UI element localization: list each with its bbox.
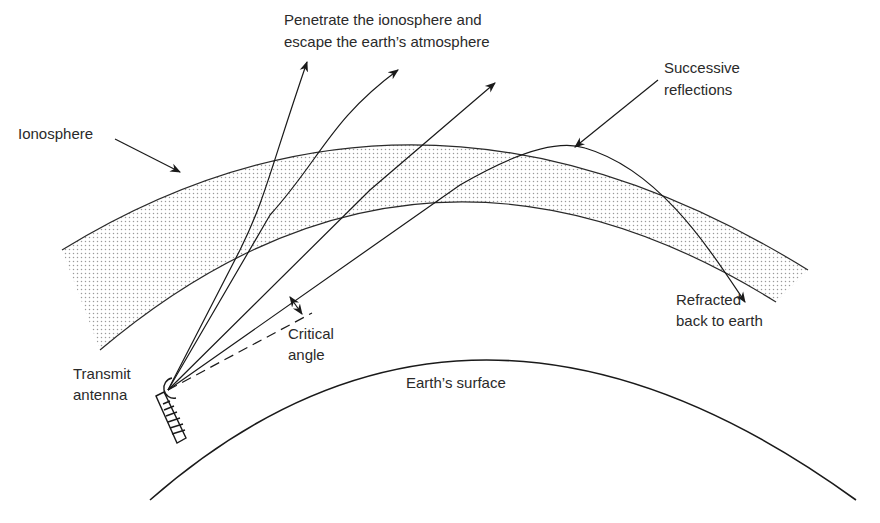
successive-pointer xyxy=(575,80,658,147)
refracted-label-line2: back to earth xyxy=(676,312,763,329)
ionosphere-diagram: Penetrate the ionosphere and escape the … xyxy=(0,0,880,523)
ionosphere-pointer xyxy=(115,139,180,172)
refracted-label-line1: Refracted xyxy=(676,291,741,308)
transmit-label-line1: Transmit xyxy=(73,365,132,382)
escape-label-line1: Penetrate the ionosphere and xyxy=(284,11,482,28)
earth-surface-label: Earth’s surface xyxy=(406,374,506,391)
critical-label-line1: Critical xyxy=(288,325,334,342)
escape-label-line2: escape the earth’s atmosphere xyxy=(284,33,490,50)
transmit-label-line2: antenna xyxy=(73,386,128,403)
successive-label-line2: reflections xyxy=(664,81,732,98)
critical-label-line2: angle xyxy=(288,346,325,363)
successive-label-line1: Successive xyxy=(664,59,740,76)
ionosphere-label: Ionosphere xyxy=(18,125,93,142)
